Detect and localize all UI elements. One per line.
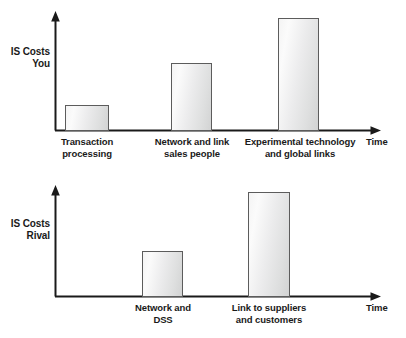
chart-panel-is-costs-you: IS Costs You Transaction processing Netw… bbox=[0, 0, 406, 169]
y-axis-label-is-costs-you: IS Costs You bbox=[2, 46, 50, 70]
x-tick-label-experimental-technology-and-global-links: Experimental technology and global links bbox=[239, 136, 361, 159]
chart-panel-is-costs-rival: IS Costs Rival Network and DSS Link to s… bbox=[0, 169, 406, 338]
bar-network-and-dss bbox=[142, 251, 183, 297]
x-tick-label-network-and-link-sales-people: Network and link sales people bbox=[138, 136, 246, 159]
x-tick-label-transaction-processing: Transaction processing bbox=[42, 136, 132, 159]
x-tick-label-network-and-dss: Network and DSS bbox=[119, 302, 207, 325]
bar-transaction-processing bbox=[65, 105, 109, 131]
bar-link-to-suppliers-and-customers bbox=[248, 192, 290, 297]
x-axis-label-time: Time bbox=[366, 136, 388, 147]
x-tick-label-link-to-suppliers-and-customers: Link to suppliers and customers bbox=[219, 302, 319, 325]
y-axis-label-is-costs-rival: IS Costs Rival bbox=[2, 218, 50, 242]
two-panel-bar-chart-figure: IS Costs You Transaction processing Netw… bbox=[0, 0, 406, 338]
bar-network-and-link-sales-people bbox=[171, 63, 212, 131]
x-axis-label-time: Time bbox=[366, 302, 388, 313]
bar-experimental-technology-and-global-links bbox=[278, 18, 319, 131]
